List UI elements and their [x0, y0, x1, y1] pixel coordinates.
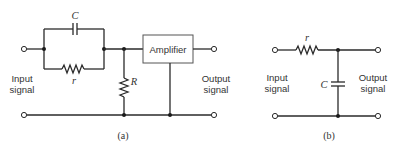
input-label-a-line2: signal	[10, 84, 35, 95]
input-label-b-line1: Input	[266, 72, 287, 83]
parallel-rc-network	[42, 23, 106, 73]
resistor-r-b-icon	[296, 46, 318, 54]
circuit-diagram: Amplifier C r R Input signal Output sign…	[0, 0, 400, 149]
capacitor-c-b-icon	[331, 82, 345, 86]
junction-node	[336, 114, 340, 118]
output-label-a-line1: Output	[202, 73, 231, 84]
input-terminal-top-a	[21, 46, 26, 51]
output-terminal-top-b	[375, 47, 380, 52]
caption-b: (b)	[323, 130, 335, 142]
output-terminal-top-a	[211, 46, 216, 51]
capacitor-c-icon	[73, 23, 77, 35]
capacitor-c-b-label: C	[320, 79, 328, 90]
input-terminal-bottom-b	[272, 113, 277, 118]
output-terminal-bottom-a	[211, 112, 216, 117]
resistor-r-icon	[62, 65, 84, 73]
junction-node	[42, 47, 46, 51]
resistor-R-icon	[120, 78, 128, 97]
caption-a: (a)	[117, 130, 128, 142]
output-terminal-bottom-b	[375, 113, 380, 118]
panel-a: Amplifier C r R Input signal Output sign…	[10, 10, 231, 142]
resistor-r-b-label: r	[305, 32, 310, 43]
input-label-b-line2: signal	[265, 83, 290, 94]
resistor-r-label: r	[72, 75, 77, 86]
junction-node	[168, 113, 172, 117]
capacitor-c-label: C	[71, 10, 79, 21]
amplifier-label: Amplifier	[150, 44, 187, 55]
junction-node	[122, 113, 126, 117]
input-terminal-top-b	[272, 47, 277, 52]
input-terminal-bottom-a	[21, 112, 26, 117]
input-label-a-line1: Input	[11, 73, 32, 84]
resistor-R-label: R	[130, 76, 138, 87]
output-label-a-line2: signal	[204, 84, 229, 95]
panel-b: r C Input signal Output signal (b)	[265, 32, 388, 142]
output-label-b-line1: Output	[359, 72, 388, 83]
output-label-b-line2: signal	[361, 83, 386, 94]
